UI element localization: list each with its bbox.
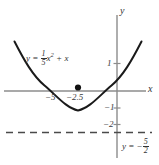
curve-equation-label: y = 1 5 x2 + x (26, 50, 68, 67)
dashed-line-equation-label: y = − 5 2 (122, 138, 149, 155)
x-axis-label: x (148, 84, 152, 94)
dashed-line-eq: = − (128, 141, 142, 151)
curve-equation-exponent: 2 (51, 51, 54, 58)
curve-equation-eq: = (32, 53, 38, 63)
vertex-x-point-marker (75, 84, 81, 90)
y-tick-label-neg2: −2 (103, 120, 114, 129)
curve-equation-y: y (26, 53, 30, 63)
x-tick-label-neg25: −2.5 (66, 93, 83, 102)
y-tick-label-1: 1 (107, 59, 112, 68)
graph-figure: y = 1 5 x2 + x y x −5 −2.5 1 −1 −2 y = −… (0, 0, 159, 165)
dashed-line-y: y (122, 141, 126, 151)
y-axis-label: y (120, 6, 124, 16)
x-tick-label-neg5: −5 (45, 93, 56, 102)
dashed-line-fraction: 5 2 (143, 138, 149, 155)
y-tick-label-neg1: −1 (104, 103, 115, 112)
curve-equation-tail: + x (56, 53, 68, 63)
dashed-line-denominator: 2 (143, 147, 149, 155)
